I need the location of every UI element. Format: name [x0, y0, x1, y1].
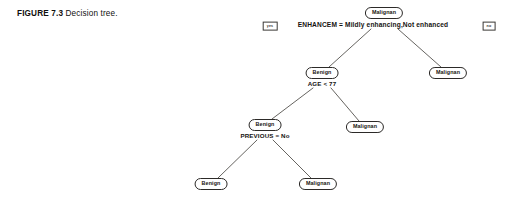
node-label: Malignan: [353, 123, 377, 129]
tree-node-benign-age[interactable]: Benign: [306, 67, 339, 79]
branch-label: yes: [267, 23, 274, 27]
tree-node-malignan-right-middle[interactable]: Malignan: [346, 121, 384, 133]
node-label: Malignan: [306, 180, 330, 186]
split-rule-age: AGE < 77: [308, 80, 337, 87]
tree-node-benign-previous[interactable]: Benign: [249, 119, 282, 131]
split-rule-text: PREVIOUS = No: [240, 132, 289, 139]
decision-tree-figure: Malignan Benign Malignan Benign Malignan…: [0, 0, 527, 198]
split-rule-previous: PREVIOUS = No: [240, 132, 289, 139]
figure-page: FIGURE 7.3 Decision tree. Malignan Benig…: [0, 0, 527, 198]
edge-n4-n6: [218, 140, 257, 178]
edge-n4-n7: [273, 140, 311, 178]
edge-n1-n3: [398, 29, 441, 67]
tree-node-benign-leaf[interactable]: Benign: [195, 178, 228, 190]
node-label: Malignan: [436, 69, 460, 75]
node-label: Benign: [313, 69, 332, 75]
node-label: Malignan: [372, 9, 396, 15]
split-rule-text: AGE < 77: [308, 80, 337, 87]
branch-label: no: [487, 23, 492, 27]
node-label: Benign: [202, 180, 221, 186]
node-label: Benign: [256, 121, 275, 127]
tree-node-malignan-right-upper[interactable]: Malignan: [429, 67, 467, 79]
branch-box-yes: yes: [263, 22, 278, 31]
branch-box-no: no: [483, 22, 496, 31]
tree-node-malignan-leaf[interactable]: Malignan: [299, 178, 337, 190]
edge-n1-n2: [329, 29, 371, 67]
edge-n2-n4: [272, 88, 313, 119]
tree-node-root[interactable]: Malignan: [365, 7, 403, 19]
edge-n2-n5: [331, 88, 359, 121]
split-rule-enhancem: ENHANCEM = Mildly enhancing,Not enhanced: [298, 21, 449, 28]
split-rule-text: ENHANCEM = Mildly enhancing,Not enhanced: [298, 21, 449, 28]
